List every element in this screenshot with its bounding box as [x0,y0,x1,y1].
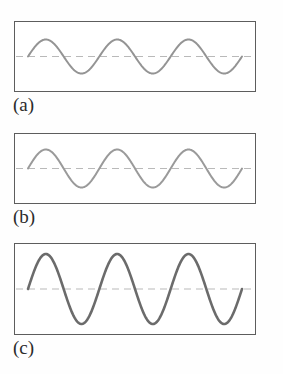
panel-a-plot [14,21,256,92]
panel-c [14,243,256,335]
waveform-figure: (a) (b) (c) [0,0,283,374]
panel-a-label: (a) [13,95,34,114]
panel-c-label: (c) [13,338,34,357]
panel-a [14,21,256,92]
panel-b [14,133,256,204]
panel-b-plot [14,133,256,204]
panel-b-label: (b) [13,207,35,226]
panel-c-plot [14,243,256,335]
